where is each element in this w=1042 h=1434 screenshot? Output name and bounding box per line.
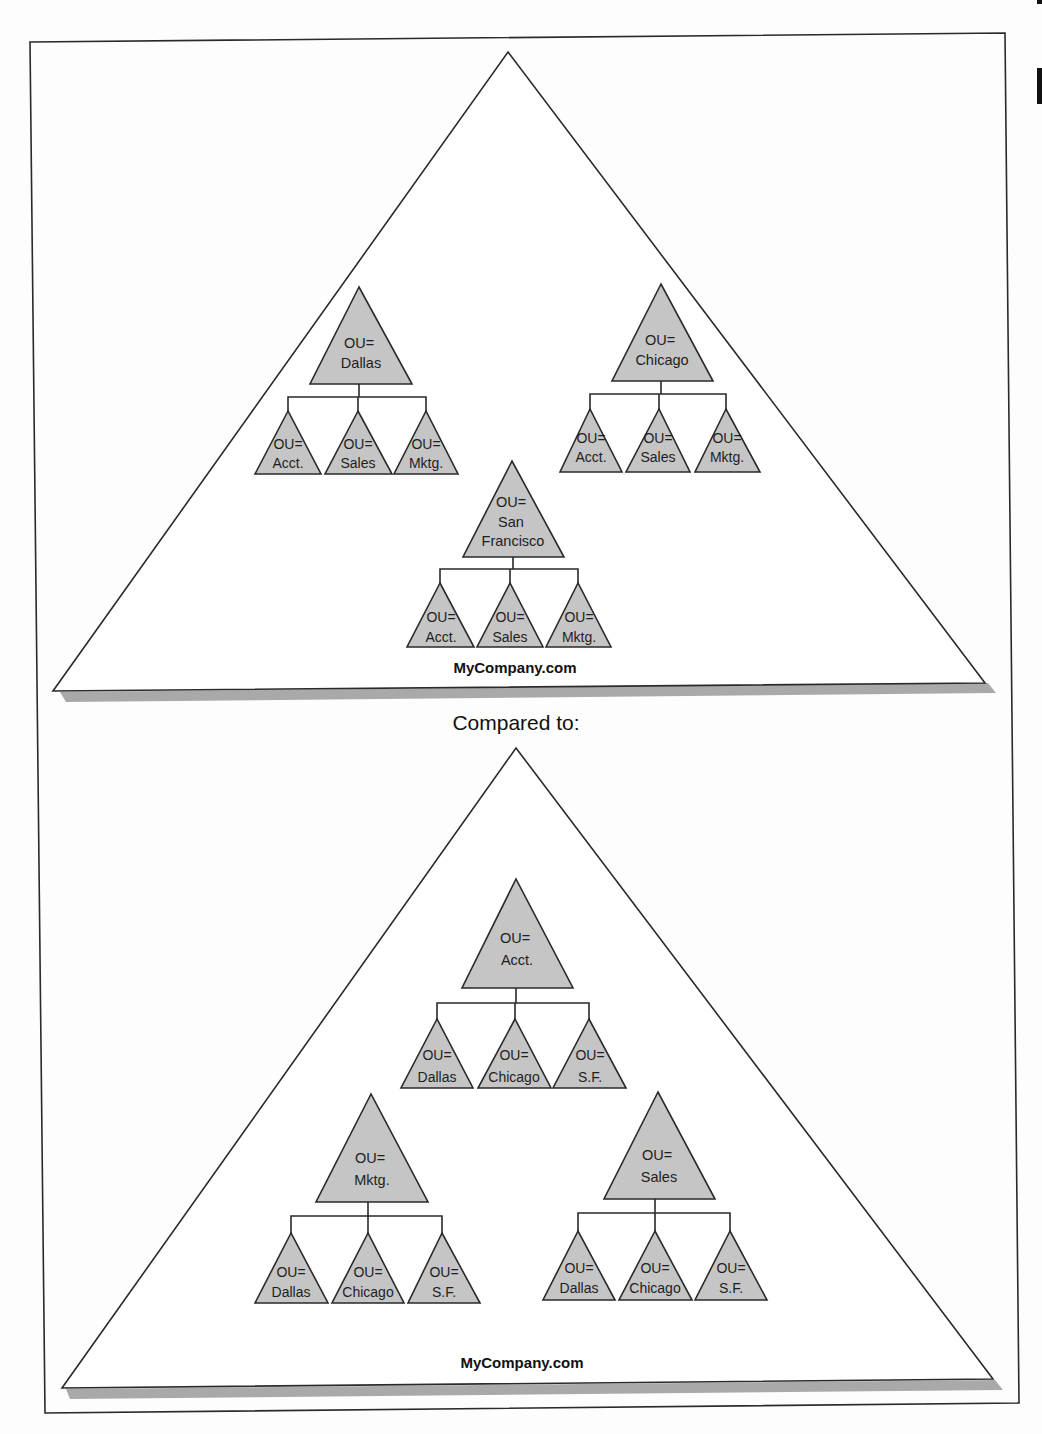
domain-label: MyCompany.com: [453, 659, 576, 676]
scan-artifact-side: [1037, 68, 1042, 104]
scan-artifact-top: [1037, 0, 1042, 4]
diagram-geography-first: OU= Dallas OU=Acct. OU=Sales OU=Mktg. OU…: [53, 52, 996, 702]
domain-label: MyCompany.com: [460, 1354, 583, 1371]
ou-structure-figure: OU= Dallas OU=Acct. OU=Sales OU=Mktg. OU…: [0, 0, 1042, 1434]
domain-triangle: [53, 52, 985, 691]
comparison-caption: Compared to:: [452, 711, 579, 734]
diagram-department-first: OU= Acct. OU=Dallas OU=Chicago OU=S.F. O…: [62, 748, 1003, 1399]
